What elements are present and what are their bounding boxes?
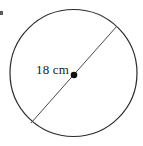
geometry-drawing [0, 0, 143, 146]
center-dot [71, 72, 78, 79]
corner-artifact-mark [0, 11, 3, 15]
figure-canvas: 18 cm [0, 0, 143, 146]
dimension-label: 18 cm [36, 63, 69, 77]
